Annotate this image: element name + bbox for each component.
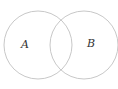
set-b-circle (50, 11, 118, 79)
venn-diagram: A B (0, 0, 118, 89)
set-b-label: B (86, 37, 95, 50)
set-a-label: A (20, 38, 29, 51)
set-a-circle (4, 11, 72, 79)
